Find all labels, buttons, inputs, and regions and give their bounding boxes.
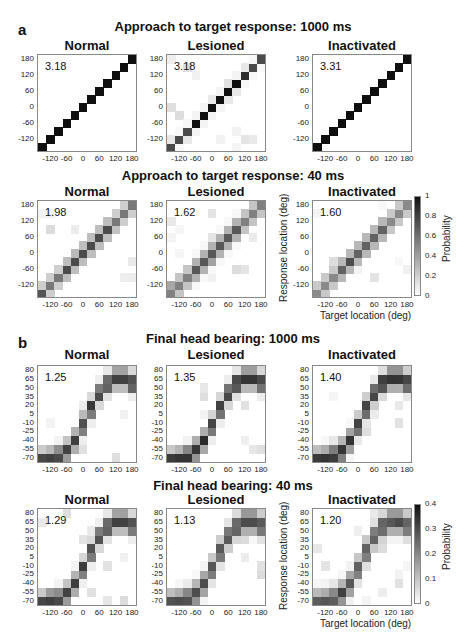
colorbar-tick-label: 0.1 xyxy=(425,574,436,583)
heatmap-4-normal: 1.29 xyxy=(37,508,137,606)
y-tick-label: 80 xyxy=(4,508,34,517)
heatmap-cell xyxy=(167,233,176,242)
heatmap-cell xyxy=(346,588,355,597)
y-tick-label: 180 xyxy=(133,200,163,209)
heatmap-3-normal: 1.25 xyxy=(37,365,137,463)
y-tick-label: 20 xyxy=(4,400,34,409)
y-tick-label: -55 xyxy=(133,587,163,596)
plot-title-inactivated: Inactivated xyxy=(312,492,412,507)
heatmap-cell xyxy=(95,401,104,410)
heatmap-cell xyxy=(313,143,322,152)
information-value: 1.35 xyxy=(174,371,195,383)
y-tick-label: -40 xyxy=(4,435,34,444)
y-tick-label: 5 xyxy=(279,409,309,418)
heatmap-cell xyxy=(370,410,379,419)
heatmap-cell xyxy=(46,135,55,144)
heatmap-cell xyxy=(257,526,266,535)
y-tick-label: 35 xyxy=(133,535,163,544)
heatmap-cell xyxy=(257,535,266,544)
heatmap-cell xyxy=(362,553,371,562)
heatmap-cell xyxy=(403,383,412,392)
heatmap-4-inactivated: 1.20 xyxy=(312,508,412,606)
y-tick-label: -10 xyxy=(4,418,34,427)
heatmap-cell xyxy=(232,241,241,250)
heatmap-cell xyxy=(346,445,355,454)
heatmap-cell xyxy=(38,143,47,152)
row-title-head-40: Final head bearing: 40 ms xyxy=(0,478,466,493)
heatmap-cell xyxy=(71,265,80,274)
y-tick-label: 0 xyxy=(133,248,163,257)
y-tick-label: -60 xyxy=(279,118,309,127)
heatmap-cell xyxy=(200,445,209,454)
x-tick-label: 180 xyxy=(120,465,144,474)
y-axis-label: Response location (deg) xyxy=(278,194,289,302)
heatmap-cell xyxy=(403,535,412,544)
y-tick-label: -70 xyxy=(4,596,34,605)
y-tick-label: -60 xyxy=(133,264,163,273)
heatmap-cell xyxy=(257,570,266,579)
y-tick-label: 80 xyxy=(279,365,309,374)
x-tick-label: 180 xyxy=(120,300,144,309)
heatmap-cell xyxy=(208,273,217,282)
heatmap-cell xyxy=(216,135,225,144)
information-value: 3.18 xyxy=(45,60,66,72)
y-tick-label: 180 xyxy=(133,54,163,63)
y-tick-label: 20 xyxy=(4,543,34,552)
heatmap-cell xyxy=(395,401,404,410)
heatmap-cell xyxy=(71,111,80,120)
colorbar-label: Probability xyxy=(441,215,452,262)
heatmap-cell xyxy=(87,418,96,427)
heatmap-cell xyxy=(321,135,330,144)
plot-title-normal: Normal xyxy=(37,184,137,199)
x-tick-label: 180 xyxy=(249,465,273,474)
heatmap-cell xyxy=(395,418,404,427)
y-tick-label: 50 xyxy=(133,383,163,392)
heatmap-cell xyxy=(200,392,209,401)
heatmap-cell xyxy=(63,596,72,605)
heatmap-4-lesioned: 1.13 xyxy=(166,508,266,606)
information-value: 3.31 xyxy=(320,60,341,72)
heatmap-cell xyxy=(232,87,241,96)
y-tick-label: -70 xyxy=(279,453,309,462)
y-tick-label: 180 xyxy=(4,200,34,209)
heatmap-cell xyxy=(329,392,338,401)
colorbar-tick-label: 0 xyxy=(425,291,429,300)
plot-title-normal: Normal xyxy=(37,347,137,362)
information-value: 1.25 xyxy=(45,371,66,383)
heatmap-cell xyxy=(362,427,371,436)
heatmap-cell xyxy=(354,570,363,579)
y-tick-label: 20 xyxy=(133,400,163,409)
y-tick-label: 35 xyxy=(4,535,34,544)
heatmap-cell xyxy=(403,201,412,210)
plot-title-lesioned: Lesioned xyxy=(166,347,266,362)
heatmap-cell xyxy=(95,87,104,96)
heatmap-cell xyxy=(403,518,412,527)
heatmap-cell xyxy=(257,209,266,218)
y-tick-label: 120 xyxy=(279,70,309,79)
heatmap-cell xyxy=(46,225,55,234)
heatmap-cell xyxy=(362,596,371,605)
heatmap-cell xyxy=(241,553,250,562)
colorbar-tick-label: 0.2 xyxy=(425,549,436,558)
colorbar-tick-label: 0.8 xyxy=(425,211,436,220)
heatmap-cell xyxy=(208,209,217,218)
information-value: 3.18 xyxy=(174,60,195,72)
heatmap-cell xyxy=(112,225,121,234)
heatmap-cell xyxy=(257,509,266,518)
y-tick-label: 65 xyxy=(133,517,163,526)
heatmap-cell xyxy=(120,553,129,562)
heatmap-cell xyxy=(362,418,371,427)
heatmap-cell xyxy=(354,103,363,112)
heatmap-cell xyxy=(87,249,96,258)
heatmap-cell xyxy=(208,265,217,274)
heatmap-cell xyxy=(79,257,88,266)
heatmap-cell xyxy=(257,445,266,454)
y-tick-label: -120 xyxy=(4,134,34,143)
heatmap-cell xyxy=(200,383,209,392)
y-tick-label: -10 xyxy=(279,418,309,427)
heatmap-cell xyxy=(175,143,184,152)
x-tick-label: 180 xyxy=(249,154,273,163)
y-tick-label: 0 xyxy=(133,102,163,111)
heatmap-cell xyxy=(257,63,266,72)
y-tick-label: 50 xyxy=(133,526,163,535)
